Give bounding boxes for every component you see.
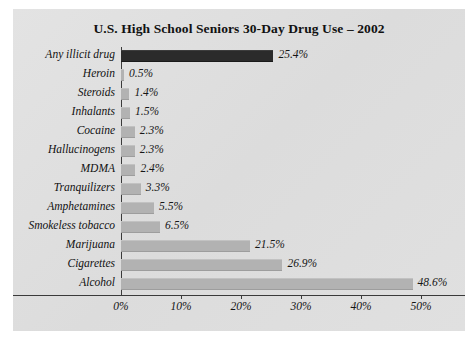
- bar-value-label: 25.4%: [278, 48, 308, 60]
- bar-row: 1.5%: [121, 104, 465, 123]
- bar-value-label: 48.6%: [418, 276, 448, 288]
- bar-row: 2.3%: [121, 142, 465, 161]
- bar-value-label: 5.5%: [159, 200, 183, 212]
- bar: [121, 240, 250, 252]
- bar-row: 2.4%: [121, 161, 465, 180]
- bar-row: 0.5%: [121, 66, 465, 85]
- x-axis-tick-label: 10%: [170, 300, 191, 312]
- category-label: Smokeless tobacco: [28, 219, 115, 231]
- x-axis-tick-mark: [181, 295, 182, 299]
- category-label: Hallucinogens: [48, 143, 115, 155]
- category-label: Cocaine: [77, 124, 115, 136]
- x-axis-tick-label: 30%: [290, 300, 311, 312]
- bar-value-label: 1.4%: [134, 86, 158, 98]
- category-label: Heroin: [83, 67, 115, 79]
- bar-value-label: 2.3%: [140, 143, 164, 155]
- bar-value-label: 0.5%: [129, 67, 153, 79]
- chart-figure: U.S. High School Seniors 30-Day Drug Use…: [13, 9, 465, 331]
- category-label: Cigarettes: [68, 257, 116, 269]
- chart-title: U.S. High School Seniors 30-Day Drug Use…: [13, 21, 465, 37]
- bar-value-label: 21.5%: [255, 238, 285, 250]
- x-axis-line: [13, 295, 465, 296]
- bar-row: 6.5%: [121, 218, 465, 237]
- category-label: Any illicit drug: [45, 48, 115, 60]
- bar-value-label: 1.5%: [135, 105, 159, 117]
- bar: [121, 221, 160, 233]
- bar: [121, 69, 124, 81]
- bar-row: 2.3%: [121, 123, 465, 142]
- x-axis-tick-label: 0%: [113, 300, 128, 312]
- bar-value-label: 26.9%: [287, 257, 317, 269]
- x-axis-tick-label: 40%: [350, 300, 371, 312]
- bar-row: 5.5%: [121, 199, 465, 218]
- bar: [121, 107, 130, 119]
- bar: [121, 259, 282, 271]
- bar-value-label: 2.4%: [140, 162, 164, 174]
- bar: [121, 202, 154, 214]
- x-axis-tick-mark: [361, 295, 362, 299]
- bar-row: 3.3%: [121, 180, 465, 199]
- plot-area: 25.4%0.5%1.4%1.5%2.3%2.3%2.4%3.3%5.5%6.5…: [121, 47, 465, 291]
- x-axis-tick-mark: [301, 295, 302, 299]
- bar: [121, 50, 273, 62]
- bar-value-label: 2.3%: [140, 124, 164, 136]
- bar-value-label: 6.5%: [165, 219, 189, 231]
- category-label: Alcohol: [79, 276, 115, 288]
- x-axis-tick-label: 20%: [230, 300, 251, 312]
- bar: [121, 278, 413, 290]
- x-axis-tick-mark: [241, 295, 242, 299]
- category-label: Steroids: [78, 86, 115, 98]
- bar-row: 21.5%: [121, 237, 465, 256]
- bar-row: 1.4%: [121, 85, 465, 104]
- bar-value-label: 3.3%: [146, 181, 170, 193]
- bar-row: 26.9%: [121, 256, 465, 275]
- bar: [121, 164, 135, 176]
- category-label: Marijuana: [66, 238, 115, 250]
- bar: [121, 183, 141, 195]
- category-label: MDMA: [81, 162, 116, 174]
- x-axis-tick-label: 50%: [410, 300, 431, 312]
- category-label: Inhalants: [72, 105, 115, 117]
- category-label: Amphetamines: [47, 200, 115, 212]
- bar: [121, 145, 135, 157]
- bar: [121, 88, 129, 100]
- bar-row: 48.6%: [121, 275, 465, 294]
- bar-row: 25.4%: [121, 47, 465, 66]
- bar: [121, 126, 135, 138]
- x-axis-tick-mark: [421, 295, 422, 299]
- category-label: Tranquilizers: [54, 181, 115, 193]
